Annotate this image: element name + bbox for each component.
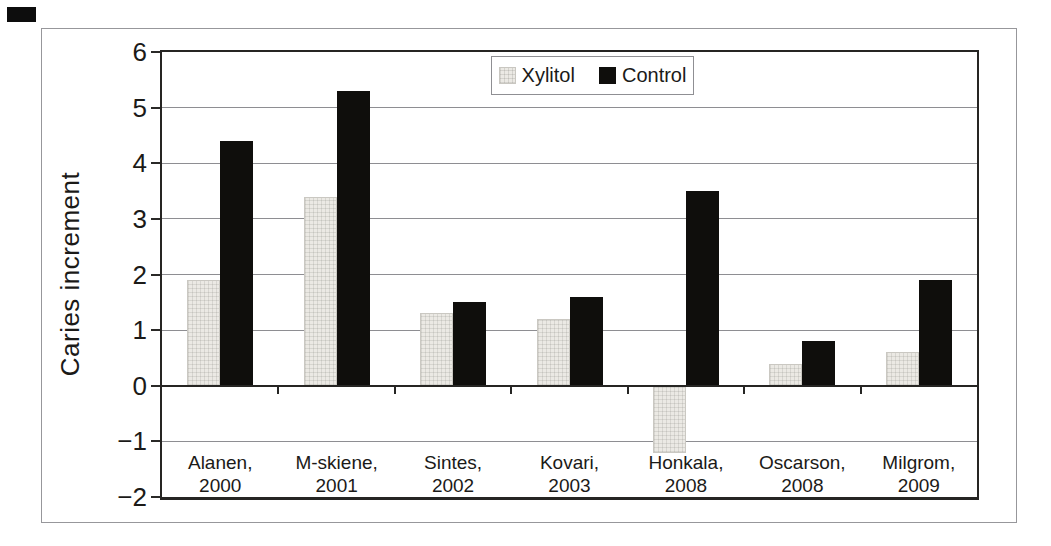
bar-xylitol-m-skiene-2001 [304, 197, 337, 386]
x-category-line2: 2001 [278, 474, 396, 497]
y-tick-label--1: −1 [103, 427, 147, 455]
y-tick-label-2: 2 [103, 261, 147, 289]
x-tick-5 [743, 387, 745, 394]
x-category-line1: Honkala, [627, 451, 745, 474]
x-category-line2: 2000 [161, 474, 279, 497]
scan-corner-mark [7, 7, 36, 22]
bar-control-milgrom-2009 [919, 280, 952, 386]
bar-control-alanen-2000 [220, 141, 253, 386]
plot-area [160, 50, 979, 500]
y-tick-label-0: 0 [103, 372, 147, 400]
control-swatch-icon [599, 67, 616, 84]
y-tick-label-1: 1 [103, 316, 147, 344]
y-tick-label-5: 5 [103, 94, 147, 122]
y-axis-title: Caries increment [55, 172, 86, 377]
x-category-label-sintes-2002: Sintes,2002 [394, 451, 512, 497]
bar-xylitol-milgrom-2009 [886, 352, 919, 385]
y-tick-label--2: −2 [103, 483, 147, 511]
x-tick-2 [394, 387, 396, 394]
x-category-label-kovari-2003: Kovari,2003 [511, 451, 629, 497]
x-axis-zero-line [162, 385, 977, 387]
x-category-label-alanen-2000: Alanen,2000 [161, 451, 279, 497]
x-category-label-honkala-2008: Honkala,2008 [627, 451, 745, 497]
gridline-y--1 [162, 441, 977, 442]
bar-control-m-skiene-2001 [337, 91, 370, 386]
y-tick-label-4: 4 [103, 149, 147, 177]
x-category-line2: 2008 [743, 474, 861, 497]
y-tick-label-6: 6 [103, 38, 147, 66]
legend-label-xylitol: Xylitol [522, 64, 575, 87]
bar-control-oscarson-2008 [802, 341, 835, 386]
y-tick-label-3: 3 [103, 205, 147, 233]
legend: Xylitol Control [491, 56, 694, 95]
x-category-line2: 2003 [511, 474, 629, 497]
x-category-line2: 2002 [394, 474, 512, 497]
x-tick-3 [510, 387, 512, 394]
x-category-label-oscarson-2008: Oscarson,2008 [743, 451, 861, 497]
x-category-label-milgrom-2009: Milgrom,2009 [860, 451, 978, 497]
x-category-label-m-skiene-2001: M-skiene,2001 [278, 451, 396, 497]
x-category-line1: Sintes, [394, 451, 512, 474]
bar-xylitol-kovari-2003 [537, 319, 570, 386]
gridline-y-3 [162, 218, 977, 219]
legend-item-control: Control [599, 64, 686, 87]
bar-control-kovari-2003 [570, 297, 603, 386]
x-category-line1: Alanen, [161, 451, 279, 474]
gridline-y-2 [162, 274, 977, 275]
x-category-line1: Oscarson, [743, 451, 861, 474]
gridline-y-5 [162, 107, 977, 108]
x-tick-1 [277, 387, 279, 394]
bar-control-sintes-2002 [453, 302, 486, 385]
bar-control-honkala-2008 [686, 191, 719, 386]
legend-item-xylitol: Xylitol [499, 64, 575, 87]
xylitol-swatch-icon [499, 67, 516, 84]
bar-xylitol-oscarson-2008 [769, 364, 802, 386]
x-category-line1: Milgrom, [860, 451, 978, 474]
bar-xylitol-sintes-2002 [420, 313, 453, 385]
x-category-line2: 2008 [627, 474, 745, 497]
x-category-line2: 2009 [860, 474, 978, 497]
gridline-y-4 [162, 163, 977, 164]
x-tick-6 [860, 387, 862, 394]
x-tick-4 [627, 387, 629, 394]
legend-label-control: Control [622, 64, 686, 87]
bar-xylitol-honkala-2008 [653, 386, 686, 453]
x-category-line1: M-skiene, [278, 451, 396, 474]
x-category-line1: Kovari, [511, 451, 629, 474]
figure-canvas: Caries increment 6543210−1−2 Alanen,2000… [0, 0, 1051, 546]
bar-xylitol-alanen-2000 [187, 280, 220, 386]
